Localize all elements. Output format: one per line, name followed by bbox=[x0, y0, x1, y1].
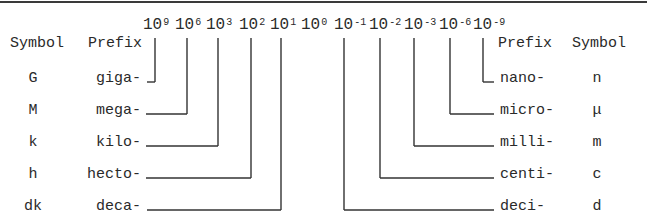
connector-lines bbox=[0, 0, 647, 222]
